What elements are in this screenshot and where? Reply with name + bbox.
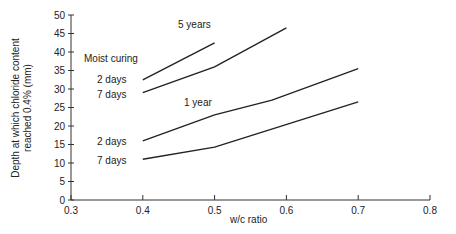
y-axis-label: Depth at which chloride content reached … (10, 38, 34, 178)
x-axis-label: w/c ratio (230, 214, 267, 225)
x-tick-label: 0.6 (279, 205, 293, 216)
series-line-0 (143, 43, 215, 80)
x-tick-label: 0.3 (64, 205, 78, 216)
x-tick-label: 0.5 (208, 205, 222, 216)
line-chart: 051015202530354045500.30.40.50.60.70.8 (0, 0, 456, 234)
annotation-moist-curing: Moist curing (84, 53, 138, 64)
x-tick-label: 0.7 (351, 205, 365, 216)
x-tick-label: 0.8 (423, 205, 437, 216)
y-axis-label-line-1: Depth at which chloride content (10, 38, 22, 178)
annotation-5-years: 5 years (178, 19, 211, 30)
y-tick-label: 20 (54, 121, 66, 132)
y-tick-label: 15 (54, 139, 66, 150)
x-tick-label: 0.4 (136, 205, 150, 216)
series-line-2 (143, 69, 358, 141)
series-line-3 (143, 102, 358, 159)
y-tick-label: 30 (54, 84, 66, 95)
y-tick-label: 0 (59, 195, 65, 206)
y-tick-label: 25 (54, 102, 66, 113)
y-tick-label: 40 (54, 47, 66, 58)
y-tick-label: 45 (54, 28, 66, 39)
y-tick-label: 5 (59, 176, 65, 187)
series-line-1 (143, 28, 287, 93)
y-axis-label-line-2: reached 0.4% (mm) (22, 38, 34, 178)
y-tick-label: 10 (54, 158, 66, 169)
y-tick-label: 50 (54, 10, 66, 21)
annotation-1-year: 1 year (184, 97, 212, 108)
annotation-1yr-7-days: 7 days (97, 155, 126, 166)
y-tick-label: 35 (54, 65, 66, 76)
annotation-1yr-2-days: 2 days (97, 136, 126, 147)
annotation-5yr-2-days: 2 days (97, 74, 126, 85)
annotation-5yr-7-days: 7 days (97, 89, 126, 100)
